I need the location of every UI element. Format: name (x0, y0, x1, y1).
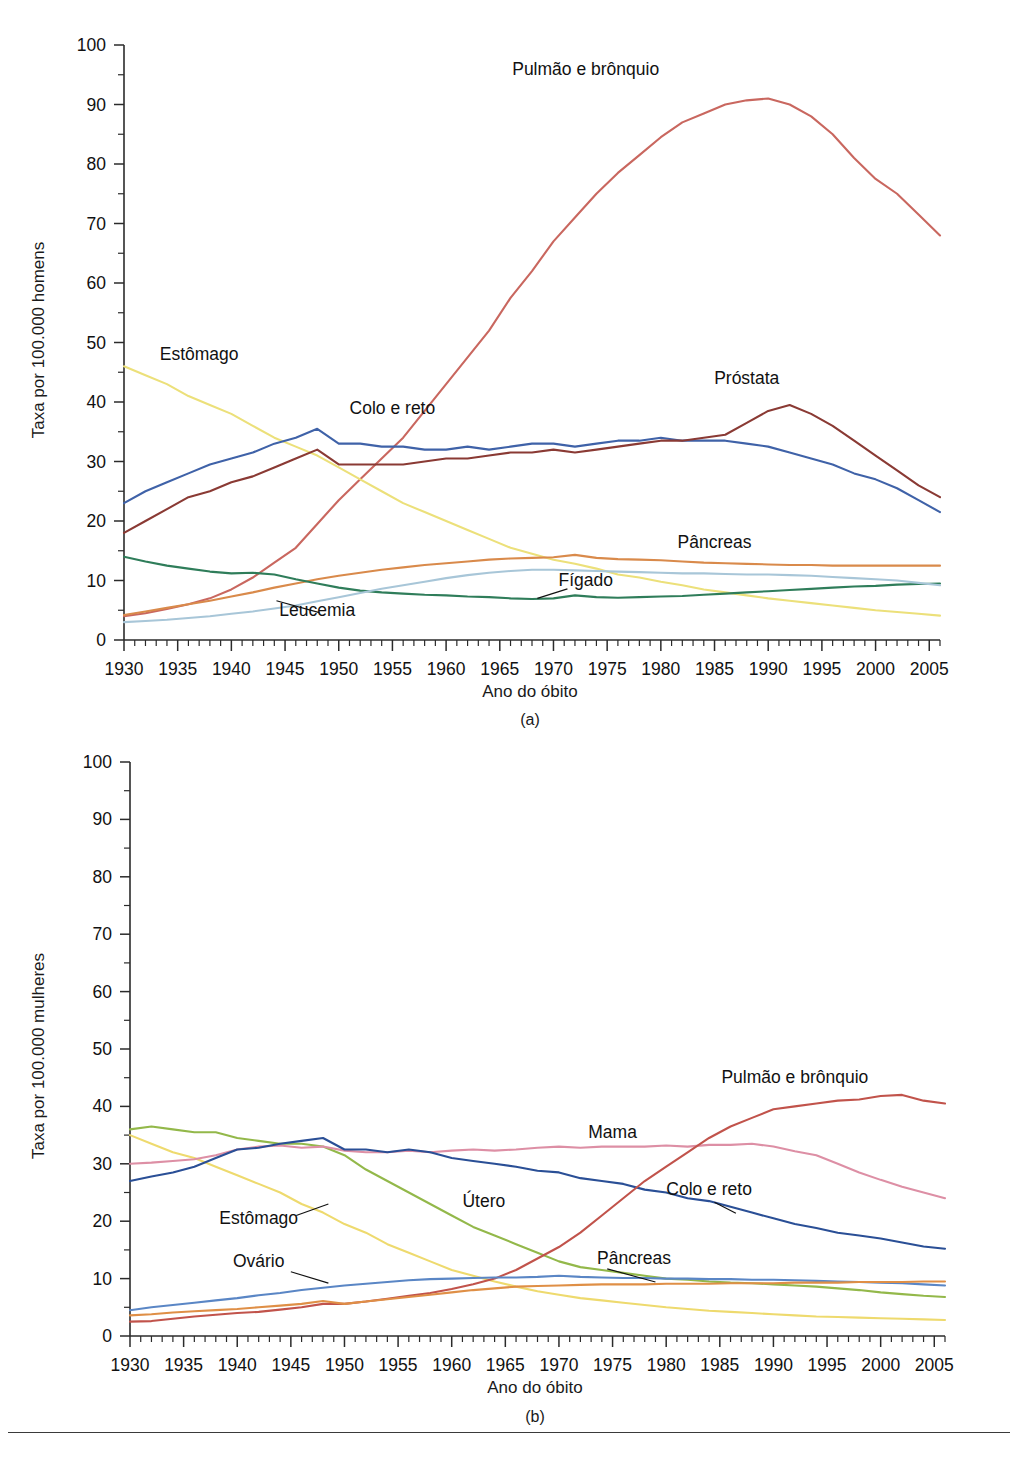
b-x-tick-label: 1945 (271, 1355, 310, 1375)
figure-cancer-mortality-trends: 0102030405060708090100193019351940194519… (0, 0, 1018, 1476)
footer-divider (8, 1432, 1010, 1433)
chart-a-series (124, 99, 940, 623)
chart-panel-a: 0102030405060708090100193019351940194519… (0, 0, 1018, 740)
a-x-tick-label: 1955 (373, 659, 412, 679)
a-series-label-pulm-o-e-br-nquio: Pulmão e brônquio (512, 59, 659, 79)
b-y-tick-label: 50 (93, 1039, 113, 1059)
chart-a-annotations: Pulmão e brônquioEstômagoColo e retoPrós… (160, 59, 780, 620)
b-x-tick-label: 1930 (111, 1355, 150, 1375)
a-series-label-colo-e-reto: Colo e reto (350, 398, 436, 418)
b-x-tick-label: 1935 (164, 1355, 203, 1375)
a-x-tick-label: 1945 (266, 659, 305, 679)
b-y-tick-label: 60 (93, 982, 113, 1002)
a-series-line-est-mago (124, 366, 940, 615)
b-x-tick-label: 1955 (379, 1355, 418, 1375)
b-y-tick-label: 70 (93, 924, 113, 944)
a-x-tick-label: 1995 (802, 659, 841, 679)
b-x-tick-label: 1950 (325, 1355, 364, 1375)
a-series-line-pulm-o-e-br-nquio (124, 99, 940, 617)
a-series-label-p-ncreas: Pâncreas (678, 532, 752, 552)
b-y-tick-label: 100 (83, 752, 112, 772)
chart-b-caption: (b) (525, 1408, 545, 1425)
b-y-tick-label: 10 (93, 1269, 113, 1289)
a-y-tick-label: 20 (87, 511, 107, 531)
b-y-tick-label: 90 (93, 809, 113, 829)
a-x-tick-label: 1960 (427, 659, 466, 679)
b-series-label-est-mago: Estômago (219, 1208, 298, 1228)
a-y-tick-label: 60 (87, 273, 107, 293)
a-y-tick-label: 90 (87, 95, 107, 115)
b-y-tick-label: 40 (93, 1096, 113, 1116)
b-series-label-p-ncreas: Pâncreas (597, 1248, 671, 1268)
chart-panel-b: 0102030405060708090100193019351940194519… (0, 736, 1018, 1436)
chart-b-xlabel: Ano do óbito (487, 1378, 582, 1397)
a-series-line-colo-e-reto (124, 429, 940, 512)
chart-b-ylabel: Taxa por 100.000 mulheres (29, 953, 48, 1159)
chart-b-annotations: ÚteroEstômagoMamaColo e retoPulmão e brô… (219, 1067, 868, 1283)
chart-a-svg: 0102030405060708090100193019351940194519… (0, 0, 1018, 740)
chart-a-ylabel: Taxa por 100.000 homens (29, 242, 48, 439)
b-x-tick-label: 2005 (915, 1355, 954, 1375)
a-series-label-leucemia: Leucemia (279, 600, 355, 620)
b-x-tick-label: 1995 (808, 1355, 847, 1375)
a-y-tick-label: 40 (87, 392, 107, 412)
a-y-tick-label: 50 (87, 333, 107, 353)
a-series-line-p-ncreas (124, 555, 940, 615)
b-x-tick-label: 1960 (432, 1355, 471, 1375)
b-x-tick-label: 1990 (754, 1355, 793, 1375)
a-series-label-pr-stata: Próstata (714, 368, 779, 388)
b-x-tick-label: 1940 (218, 1355, 257, 1375)
b-x-tick-label: 1970 (539, 1355, 578, 1375)
b-x-tick-label: 1965 (486, 1355, 525, 1375)
a-x-tick-label: 1970 (534, 659, 573, 679)
a-x-tick-label: 1935 (158, 659, 197, 679)
b-series-label-tero: Útero (462, 1190, 505, 1211)
a-x-tick-label: 1965 (480, 659, 519, 679)
b-y-tick-label: 30 (93, 1154, 113, 1174)
chart-a-xlabel: Ano do óbito (482, 682, 577, 701)
a-y-tick-label: 30 (87, 452, 107, 472)
a-x-tick-label: 2000 (856, 659, 895, 679)
a-x-tick-label: 2005 (910, 659, 949, 679)
a-x-tick-label: 1975 (588, 659, 627, 679)
b-series-label-colo-e-reto: Colo e reto (666, 1179, 752, 1199)
b-x-tick-label: 1980 (647, 1355, 686, 1375)
a-x-tick-label: 1985 (695, 659, 734, 679)
a-y-tick-label: 70 (87, 214, 107, 234)
b-series-label-ov-rio: Ovário (233, 1251, 285, 1271)
a-y-tick-label: 100 (77, 35, 106, 55)
b-y-tick-label: 20 (93, 1211, 113, 1231)
a-x-tick-label: 1990 (749, 659, 788, 679)
b-x-tick-label: 2000 (861, 1355, 900, 1375)
chart-a-caption: (a) (520, 711, 540, 728)
a-series-line-pr-stata (124, 405, 940, 533)
a-x-tick-label: 1930 (105, 659, 144, 679)
a-y-tick-label: 80 (87, 154, 107, 174)
b-y-tick-label: 0 (102, 1326, 112, 1346)
b-series-label-pulm-o-e-br-nquio: Pulmão e brônquio (721, 1067, 868, 1087)
b-y-tick-label: 80 (93, 867, 113, 887)
a-x-tick-label: 1980 (641, 659, 680, 679)
a-series-label-est-mago: Estômago (160, 344, 239, 364)
a-series-label-f-gado: Fígado (558, 570, 612, 590)
a-x-tick-label: 1940 (212, 659, 251, 679)
a-x-tick-label: 1950 (319, 659, 358, 679)
b-series-line-colo-e-reto (130, 1138, 945, 1249)
b-series-label-mama: Mama (588, 1122, 637, 1142)
b-x-tick-label: 1975 (593, 1355, 632, 1375)
b-x-tick-label: 1985 (700, 1355, 739, 1375)
a-y-tick-label: 0 (96, 630, 106, 650)
b-leader-ovario (291, 1272, 329, 1283)
a-series-line-leucemia (124, 570, 940, 622)
a-y-tick-label: 10 (87, 571, 107, 591)
chart-b-svg: 0102030405060708090100193019351940194519… (0, 736, 1018, 1436)
b-series-line-ov-rio (130, 1276, 945, 1310)
